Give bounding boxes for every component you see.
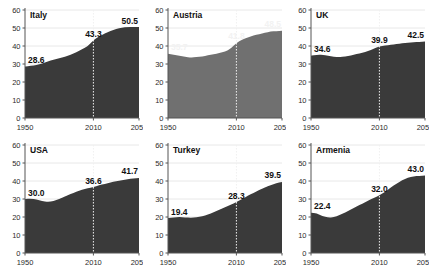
area-series-italy xyxy=(25,27,139,118)
data-label-turkey-2050: 39.5 xyxy=(264,170,281,180)
y-axis-tick-label-40: 40 xyxy=(155,42,163,51)
y-axis-tick-label-10: 10 xyxy=(12,96,20,105)
x-axis-tick-label-2050: 2050 xyxy=(131,258,143,267)
data-label-armenia-2010: 32.0 xyxy=(371,184,388,194)
x-axis-tick-label-2010: 2010 xyxy=(228,123,245,132)
y-axis-tick-label-50: 50 xyxy=(298,159,306,168)
x-axis-tick-label-1950: 1950 xyxy=(17,123,34,132)
chart-panel-svg-uk: 0102030405060195020102050UK34.639.942.5 xyxy=(286,0,429,135)
y-axis-tick-label-60: 60 xyxy=(12,141,20,150)
panel-title-italy: Italy xyxy=(30,10,47,20)
panel-title-uk: UK xyxy=(316,10,329,20)
y-axis-tick-label-20: 20 xyxy=(12,213,20,222)
panel-title-armenia: Armenia xyxy=(316,145,350,155)
chart-panel-uk: 0102030405060195020102050UK34.639.942.5 xyxy=(286,0,430,135)
chart-panel-turkey: 0102030405060195020102050Turkey19.428.33… xyxy=(143,135,286,271)
chart-panel-italy: 0102030405060195020102050Italy28.643.350… xyxy=(0,0,143,135)
y-axis-tick-label-50: 50 xyxy=(155,159,163,168)
y-axis-tick-label-0: 0 xyxy=(302,249,306,258)
x-axis-tick-label-2050: 2050 xyxy=(274,258,286,267)
y-axis-tick-label-40: 40 xyxy=(12,177,20,186)
data-label-turkey-1950: 19.4 xyxy=(171,207,188,217)
panel-title-turkey: Turkey xyxy=(173,145,201,155)
y-axis-tick-label-60: 60 xyxy=(12,6,20,15)
data-label-italy-2050: 50.5 xyxy=(121,16,138,26)
data-label-italy-2010: 43.3 xyxy=(85,29,102,39)
data-label-usa-2010: 36.6 xyxy=(85,176,102,186)
x-axis-tick-label-1950: 1950 xyxy=(160,258,177,267)
y-axis-tick-label-20: 20 xyxy=(155,78,163,87)
x-axis-tick-label-1950: 1950 xyxy=(17,258,34,267)
data-label-austria-2010: 41.8 xyxy=(228,31,245,41)
panel-title-usa: USA xyxy=(30,145,48,155)
y-axis-tick-label-0: 0 xyxy=(159,249,163,258)
chart-panel-svg-armenia: 0102030405060195020102050Armenia22.432.0… xyxy=(286,135,429,270)
x-axis-tick-label-2050: 2050 xyxy=(417,258,429,267)
y-axis-tick-label-20: 20 xyxy=(12,78,20,87)
y-axis-tick-label-60: 60 xyxy=(298,141,306,150)
data-label-usa-2050: 41.7 xyxy=(121,166,138,176)
data-label-uk-2010: 39.9 xyxy=(371,35,388,45)
data-label-uk-1950: 34.6 xyxy=(314,44,331,54)
y-axis-tick-label-30: 30 xyxy=(12,60,20,69)
chart-panel-austria: 0102030405060195020102050Austria35.741.8… xyxy=(143,0,286,135)
y-axis-tick-label-0: 0 xyxy=(16,249,20,258)
y-axis-tick-label-60: 60 xyxy=(155,6,163,15)
y-axis-tick-label-40: 40 xyxy=(12,42,20,51)
x-axis-tick-label-2050: 2050 xyxy=(274,123,286,132)
x-axis-tick-label-1950: 1950 xyxy=(303,258,320,267)
x-axis-tick-label-1950: 1950 xyxy=(160,123,177,132)
data-label-uk-2050: 42.5 xyxy=(407,30,424,40)
y-axis-tick-label-60: 60 xyxy=(298,6,306,15)
y-axis-tick-label-30: 30 xyxy=(155,60,163,69)
x-axis-tick-label-1950: 1950 xyxy=(303,123,320,132)
y-axis-tick-label-50: 50 xyxy=(12,24,20,33)
y-axis-tick-label-0: 0 xyxy=(16,114,20,123)
data-label-armenia-1950: 22.4 xyxy=(314,201,331,211)
chart-panel-svg-turkey: 0102030405060195020102050Turkey19.428.33… xyxy=(143,135,286,270)
y-axis-tick-label-10: 10 xyxy=(155,231,163,240)
chart-panel-svg-usa: 0102030405060195020102050USA30.036.641.7 xyxy=(0,135,143,270)
data-label-usa-1950: 30.0 xyxy=(28,188,45,198)
chart-panel-usa: 0102030405060195020102050USA30.036.641.7 xyxy=(0,135,143,271)
data-label-austria-1950: 35.7 xyxy=(171,42,188,52)
y-axis-tick-label-30: 30 xyxy=(298,195,306,204)
y-axis-tick-label-40: 40 xyxy=(298,42,306,51)
y-axis-tick-label-20: 20 xyxy=(155,213,163,222)
data-label-austria-2050: 48.5 xyxy=(264,19,281,29)
y-axis-tick-label-40: 40 xyxy=(298,177,306,186)
x-axis-tick-label-2050: 2050 xyxy=(131,123,143,132)
chart-panel-armenia: 0102030405060195020102050Armenia22.432.0… xyxy=(286,135,430,271)
x-axis-tick-label-2010: 2010 xyxy=(85,258,102,267)
data-label-armenia-2050: 43.0 xyxy=(407,164,424,174)
x-axis-tick-label-2010: 2010 xyxy=(228,258,245,267)
x-axis-tick-label-2010: 2010 xyxy=(371,123,388,132)
y-axis-tick-label-30: 30 xyxy=(12,195,20,204)
y-axis-tick-label-50: 50 xyxy=(298,24,306,33)
x-axis-tick-label-2010: 2010 xyxy=(85,123,102,132)
y-axis-tick-label-0: 0 xyxy=(302,114,306,123)
x-axis-tick-label-2010: 2010 xyxy=(371,258,388,267)
x-axis-tick-label-2050: 2050 xyxy=(417,123,429,132)
y-axis-tick-label-20: 20 xyxy=(298,213,306,222)
area-series-armenia xyxy=(311,176,425,253)
y-axis-tick-label-40: 40 xyxy=(155,177,163,186)
panel-title-austria: Austria xyxy=(173,10,203,20)
y-axis-tick-label-10: 10 xyxy=(298,231,306,240)
y-axis-tick-label-30: 30 xyxy=(298,60,306,69)
y-axis-tick-label-10: 10 xyxy=(155,96,163,105)
data-label-turkey-2010: 28.3 xyxy=(228,191,245,201)
y-axis-tick-label-60: 60 xyxy=(155,141,163,150)
y-axis-tick-label-50: 50 xyxy=(155,24,163,33)
y-axis-tick-label-30: 30 xyxy=(155,195,163,204)
y-axis-tick-label-10: 10 xyxy=(12,231,20,240)
y-axis-tick-label-0: 0 xyxy=(159,114,163,123)
small-multiples-chart-grid: 0102030405060195020102050Italy28.643.350… xyxy=(0,0,430,271)
chart-panel-svg-italy: 0102030405060195020102050Italy28.643.350… xyxy=(0,0,143,135)
y-axis-tick-label-10: 10 xyxy=(298,96,306,105)
area-series-turkey xyxy=(168,182,282,253)
y-axis-tick-label-50: 50 xyxy=(12,159,20,168)
y-axis-tick-label-20: 20 xyxy=(298,78,306,87)
data-label-italy-1950: 28.6 xyxy=(28,55,45,65)
chart-panel-svg-austria: 0102030405060195020102050Austria35.741.8… xyxy=(143,0,286,135)
